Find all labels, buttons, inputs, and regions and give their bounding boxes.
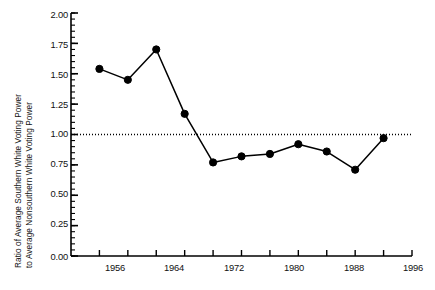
data-point-1960 <box>153 46 160 53</box>
data-point-1988 <box>352 166 359 173</box>
data-point-1980 <box>295 141 302 148</box>
series-polyline <box>99 49 383 169</box>
data-point-markers <box>96 46 387 173</box>
data-point-1964 <box>181 110 188 117</box>
data-point-1984 <box>323 148 330 155</box>
plot-area <box>0 0 435 290</box>
data-point-1992 <box>380 135 387 142</box>
data-point-1956 <box>124 76 131 83</box>
x-axis-ticks <box>99 250 412 256</box>
data-point-1972 <box>238 153 245 160</box>
data-series-line <box>99 49 383 169</box>
data-point-1952 <box>96 65 103 72</box>
chart-figure: Ratio of Average Southern White Voting P… <box>0 0 435 290</box>
data-point-1976 <box>266 150 273 157</box>
data-point-1968 <box>209 159 216 166</box>
